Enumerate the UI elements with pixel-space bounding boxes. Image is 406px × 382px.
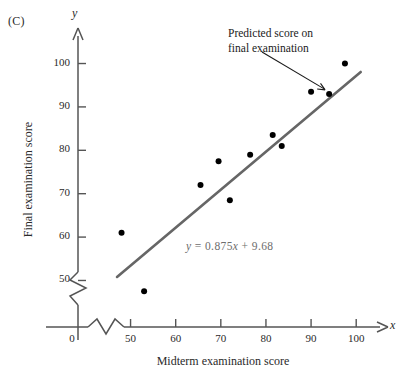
x-tick-label: 100 <box>341 332 371 344</box>
data-point <box>247 152 253 158</box>
y-tick-label: 60 <box>44 229 70 241</box>
data-points-group <box>119 61 348 295</box>
axes-group <box>46 28 388 340</box>
y-tick-label: 70 <box>44 186 70 198</box>
y-tick-label: 90 <box>44 99 70 111</box>
data-point <box>119 230 125 236</box>
x-tick-label: 0 <box>57 332 87 344</box>
scatter-plot-figure: (C) y x Final examination score Midterm … <box>0 0 406 382</box>
data-point <box>270 132 276 138</box>
data-point <box>216 158 222 164</box>
data-point <box>141 288 147 294</box>
data-point <box>279 143 285 149</box>
y-tick-label: 100 <box>44 56 70 68</box>
x-tick-label: 60 <box>161 332 191 344</box>
data-point <box>326 91 332 97</box>
data-point <box>342 61 348 67</box>
x-tick-label: 70 <box>206 332 236 344</box>
data-point <box>227 197 233 203</box>
x-tick-label: 50 <box>116 332 146 344</box>
annotation-arrow <box>262 52 325 90</box>
x-tick-label: 80 <box>251 332 281 344</box>
regression-line <box>117 72 361 277</box>
y-tick-label: 80 <box>44 142 70 154</box>
y-tick-label: 50 <box>44 272 70 284</box>
data-point <box>308 89 314 95</box>
data-point <box>198 182 204 188</box>
x-tick-label: 90 <box>296 332 326 344</box>
ticks-group <box>78 64 356 327</box>
